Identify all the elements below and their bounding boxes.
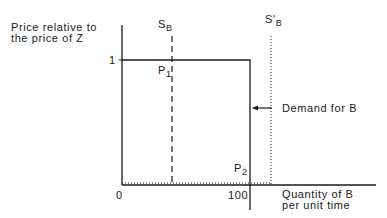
x-axis-label-2: per unit time [282, 199, 350, 211]
demand-label: Demand for B [282, 102, 357, 114]
p1-label: P1 [158, 64, 172, 80]
y-tick-label-1: 1 [109, 54, 116, 66]
supply-b-label: SB [158, 18, 173, 34]
arrow-head-icon [252, 106, 258, 111]
y-axis-label-2: the price of Z [11, 32, 84, 44]
demand-curve [122, 60, 250, 210]
p2-label: P2 [234, 162, 248, 178]
x-tick-label-100: 100 [228, 189, 248, 201]
supply-b-shifted-label: S'B [265, 13, 282, 29]
x-tick-label-0: 0 [116, 189, 123, 201]
